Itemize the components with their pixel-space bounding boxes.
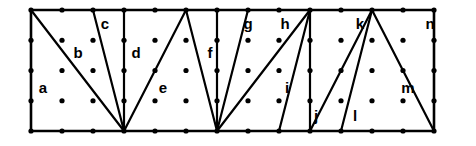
lattice-dot — [214, 128, 219, 133]
lattice-dot — [431, 38, 436, 43]
region-label-i: i — [285, 79, 289, 96]
lattice-dot — [28, 98, 33, 103]
lattice-dot — [245, 128, 250, 133]
lattice-dot — [183, 7, 188, 12]
lattice-dot — [338, 38, 343, 43]
lattice-dot — [90, 38, 95, 43]
lattice-dot — [276, 38, 281, 43]
lattice-dot — [307, 38, 312, 43]
edge-h-i — [217, 10, 310, 131]
lattice-dot — [28, 38, 33, 43]
lattice-dot — [400, 38, 405, 43]
lattice-dot — [338, 68, 343, 73]
lattice-dot — [59, 38, 64, 43]
lattice-dot — [307, 128, 312, 133]
lattice-dot — [338, 98, 343, 103]
lattice-dot — [400, 98, 405, 103]
lattice-dot — [28, 68, 33, 73]
lattice-dot — [276, 7, 281, 12]
lattice-dot — [307, 98, 312, 103]
region-label-a: a — [39, 79, 48, 96]
region-label-g: g — [243, 15, 252, 32]
lattice-dot — [183, 38, 188, 43]
lattice-dot — [152, 38, 157, 43]
lattice-dot — [121, 7, 126, 12]
lattice-dot — [121, 98, 126, 103]
lattice-dot — [431, 68, 436, 73]
region-label-d: d — [131, 44, 140, 61]
lattice-dot — [28, 7, 33, 12]
lattice-dot — [59, 128, 64, 133]
region-label-m: m — [401, 79, 414, 96]
region-label-l: l — [353, 107, 357, 124]
lattice-dot — [214, 68, 219, 73]
lattice-dot — [214, 7, 219, 12]
region-label-c: c — [101, 15, 109, 32]
lattice-dot — [121, 68, 126, 73]
lattice-dot — [183, 68, 188, 73]
lattice-dot — [307, 68, 312, 73]
lattice-dot — [369, 68, 374, 73]
lattice-dot — [369, 128, 374, 133]
lattice-dot — [152, 128, 157, 133]
lattice-dot — [59, 68, 64, 73]
lattice-dot — [338, 7, 343, 12]
region-label-b: b — [73, 44, 82, 61]
lattice-dot — [59, 98, 64, 103]
lattice-dot — [214, 98, 219, 103]
lattice-dot — [400, 68, 405, 73]
lattice-dot — [214, 38, 219, 43]
region-label-e: e — [159, 79, 167, 96]
lattice-dot — [245, 38, 250, 43]
lattice-dot — [59, 7, 64, 12]
region-label-f: f — [208, 44, 214, 61]
edge-a-b — [31, 10, 124, 131]
lattice-dot — [400, 128, 405, 133]
lattice-dot — [245, 7, 250, 12]
lattice-dot — [431, 128, 436, 133]
lattice-dot — [245, 98, 250, 103]
lattice-dot — [152, 7, 157, 12]
lattice-dot — [183, 128, 188, 133]
lattice-dot — [121, 38, 126, 43]
region-label-n: n — [425, 15, 434, 32]
lattice-dot — [369, 98, 374, 103]
lattice-dot — [152, 68, 157, 73]
lattice-dot — [400, 7, 405, 12]
edge-e-f — [186, 10, 217, 131]
lattice-triangulation-figure: abcdefghijklmn — [0, 0, 476, 146]
lattice-dot — [28, 128, 33, 133]
lattice-dot — [90, 128, 95, 133]
region-label-k: k — [356, 15, 365, 32]
lattice-dot — [338, 128, 343, 133]
lattice-dot — [276, 98, 281, 103]
lattice-dot — [245, 68, 250, 73]
lattice-dot — [369, 38, 374, 43]
lattice-dot — [431, 98, 436, 103]
lattice-dot — [90, 7, 95, 12]
lattice-dot — [307, 7, 312, 12]
figure-canvas: abcdefghijklmn — [0, 0, 476, 146]
lattice-dot — [90, 98, 95, 103]
lattice-dot — [152, 98, 157, 103]
lattice-dot — [276, 128, 281, 133]
lattice-dot — [431, 7, 436, 12]
lattice-dot — [183, 98, 188, 103]
region-label-j: j — [313, 107, 318, 124]
lattice-dot — [90, 68, 95, 73]
lattice-dot — [276, 68, 281, 73]
lattice-dot — [121, 128, 126, 133]
region-label-h: h — [280, 15, 289, 32]
lattice-dot — [369, 7, 374, 12]
